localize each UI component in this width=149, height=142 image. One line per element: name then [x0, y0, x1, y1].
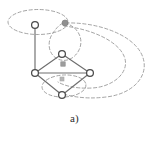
edge-left-top [35, 54, 62, 73]
figure-container: a) [0, 0, 149, 142]
hyperedges-group [8, 10, 144, 99]
marker-gray-square-upper-icon [61, 62, 65, 66]
node-top-left[interactable] [32, 22, 39, 29]
node-diamond-bottom[interactable] [59, 92, 66, 99]
node-diamond-top[interactable] [59, 51, 66, 58]
edge-top-right [62, 54, 90, 73]
marker-gray-square-lower-icon [60, 77, 64, 81]
node-diamond-right[interactable] [87, 70, 94, 77]
marker-gray-dot-icon [62, 20, 68, 26]
hyperedge-top-left-ellipse [8, 10, 68, 35]
figure-caption: a) [0, 112, 149, 124]
hyperedge-right-inner-curve [58, 26, 126, 88]
nodes-group [32, 22, 94, 99]
edge-left-bottom [35, 73, 62, 95]
node-diamond-left[interactable] [32, 70, 39, 77]
